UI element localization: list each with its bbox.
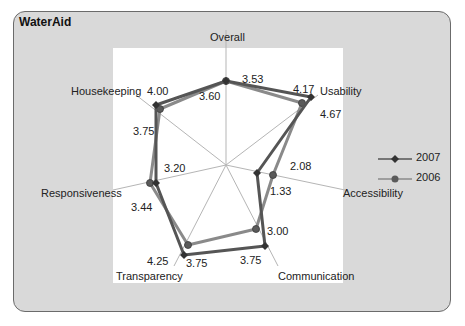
- value-label: 4.67: [320, 108, 341, 120]
- legend-item-2006: 2006: [378, 168, 440, 186]
- legend-item-2007: 2007: [378, 148, 440, 166]
- value-label: 4.25: [147, 255, 168, 267]
- value-label: 3.20: [164, 162, 185, 174]
- value-label: 3.53: [242, 73, 263, 85]
- axis-label-communication: Communication: [278, 270, 354, 282]
- value-label: 3.75: [240, 254, 261, 266]
- value-label: 3.75: [133, 125, 154, 137]
- value-label: 3.00: [267, 225, 288, 237]
- axis-label-accessibility: Accessibility: [343, 187, 403, 199]
- circle-marker-icon: [378, 171, 412, 183]
- chart-legend: 2007 2006: [378, 148, 440, 188]
- diamond-marker-icon: [378, 151, 412, 163]
- value-label: 3.44: [131, 201, 152, 213]
- value-label: 3.75: [186, 257, 207, 269]
- axis-label-transparency: Transparency: [116, 270, 183, 282]
- axis-label-housekeeping: Housekeeping: [71, 85, 141, 97]
- legend-label: 2007: [416, 151, 440, 163]
- value-label: 3.60: [199, 90, 220, 102]
- value-label: 2.08: [290, 160, 311, 172]
- axis-label-usability: Usability: [320, 85, 362, 97]
- axis-label-responsiveness: Responsiveness: [41, 187, 122, 199]
- radar-axes: [113, 30, 345, 266]
- value-label: 4.17: [293, 83, 314, 95]
- legend-label: 2006: [416, 171, 440, 183]
- value-label: 4.00: [147, 85, 168, 97]
- axis-label-overall: Overall: [210, 31, 245, 43]
- value-label: 1.33: [270, 185, 291, 197]
